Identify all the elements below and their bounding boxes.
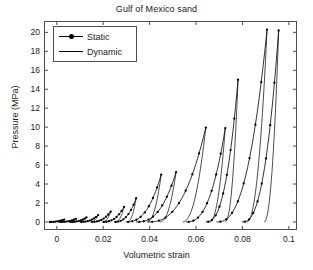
data-point-marker — [266, 28, 268, 30]
data-point-marker — [265, 157, 267, 159]
data-point-marker — [198, 152, 200, 154]
data-point-marker — [131, 220, 133, 222]
data-point-marker — [63, 218, 65, 220]
data-point-marker — [260, 81, 262, 83]
data-point-marker — [143, 220, 145, 222]
data-point-marker — [188, 221, 190, 223]
data-point-marker — [120, 210, 122, 212]
y-tick-label: 6 — [18, 160, 40, 170]
data-point-marker — [123, 206, 125, 208]
data-point-marker — [220, 153, 222, 155]
data-point-marker — [175, 171, 177, 173]
data-point-marker — [152, 197, 154, 199]
data-point-marker — [105, 221, 107, 223]
legend-entry-dynamic: Dynamic — [58, 44, 122, 59]
data-point-marker — [135, 219, 137, 221]
data-point-marker — [108, 220, 110, 222]
data-point-marker — [113, 218, 115, 220]
y-tick-label: 2 — [18, 198, 40, 208]
data-point-marker — [83, 217, 85, 219]
y-tick-label: 0 — [18, 217, 40, 227]
data-point-marker — [254, 124, 256, 126]
data-point-marker — [93, 217, 95, 219]
data-point-marker — [211, 219, 213, 221]
data-point-marker — [171, 211, 173, 213]
series-static-loading-branch — [206, 80, 238, 222]
chart-legend[interactable]: Static Dynamic — [53, 26, 137, 62]
data-point-marker — [191, 173, 193, 175]
data-point-marker — [93, 221, 95, 223]
data-point-marker — [76, 220, 78, 222]
data-point-marker — [226, 174, 228, 176]
data-point-marker — [80, 221, 82, 223]
data-point-marker — [152, 215, 154, 217]
data-point-marker — [144, 211, 146, 213]
x-tick-label: 0.06 — [176, 234, 216, 244]
data-point-marker — [269, 124, 271, 126]
data-point-marker — [207, 221, 209, 223]
x-tick-label: 0.02 — [83, 234, 123, 244]
data-point-marker — [215, 173, 217, 175]
data-point-marker — [114, 221, 116, 223]
data-point-marker — [98, 220, 100, 222]
data-point-marker — [110, 219, 112, 221]
data-point-marker — [148, 205, 150, 207]
x-tick-label: 0.1 — [269, 234, 309, 244]
data-point-marker — [74, 221, 76, 223]
data-point-marker — [81, 218, 83, 220]
data-point-marker — [135, 197, 137, 199]
data-point-marker — [138, 221, 140, 223]
series-static-loading-branch — [148, 128, 206, 222]
data-point-marker — [219, 221, 221, 223]
data-point-marker — [273, 82, 275, 84]
x-axis-label: Volumetric strain — [0, 250, 313, 260]
data-point-marker — [231, 212, 233, 214]
data-point-marker — [170, 185, 172, 187]
data-point-marker — [248, 218, 250, 220]
data-point-marker — [103, 221, 105, 223]
data-point-marker — [224, 127, 226, 129]
y-tick-label: 10 — [18, 122, 40, 132]
x-tick-label: 0 — [37, 234, 77, 244]
data-point-marker — [127, 221, 129, 223]
data-point-marker — [197, 216, 199, 218]
data-point-marker — [100, 219, 102, 221]
series-static-loading-branch — [242, 30, 279, 221]
data-point-marker — [105, 216, 107, 218]
legend-label-static: Static — [84, 32, 110, 42]
y-tick-label: 4 — [18, 179, 40, 189]
data-point-marker — [97, 214, 99, 216]
data-point-marker — [178, 202, 180, 204]
y-tick-label: 16 — [18, 65, 40, 75]
chart-title: Gulf of Mexico sand — [0, 4, 313, 14]
data-point-marker — [147, 218, 149, 220]
data-point-marker — [201, 211, 203, 213]
data-point-marker — [256, 200, 258, 202]
data-point-marker — [205, 126, 207, 128]
legend-entry-static: Static — [58, 29, 110, 44]
data-point-marker — [65, 220, 67, 222]
y-tick-label: 12 — [18, 103, 40, 113]
data-point-marker — [107, 213, 109, 215]
data-point-marker — [206, 202, 208, 204]
data-point-marker — [127, 213, 129, 215]
data-point-marker — [215, 214, 217, 216]
data-point-marker — [160, 173, 162, 175]
data-point-marker — [156, 186, 158, 188]
data-point-marker — [78, 220, 80, 222]
data-point-marker — [125, 216, 127, 218]
data-point-marker — [91, 221, 93, 223]
data-point-marker — [261, 183, 263, 185]
data-point-marker — [139, 216, 141, 218]
data-point-marker — [243, 182, 245, 184]
data-point-marker — [86, 220, 88, 222]
data-point-marker — [84, 220, 86, 222]
data-point-marker — [237, 79, 239, 81]
data-point-marker — [115, 216, 117, 218]
data-point-marker — [161, 204, 163, 206]
data-point-marker — [75, 218, 77, 220]
data-point-marker — [166, 196, 168, 198]
y-tick-label: 8 — [18, 141, 40, 151]
series-static-loading-branch — [125, 175, 161, 222]
data-point-marker — [225, 218, 227, 220]
